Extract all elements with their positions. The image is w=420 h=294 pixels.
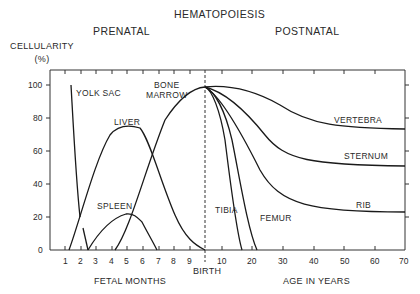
curve-rib: [205, 87, 405, 212]
curve-femur: [205, 87, 257, 250]
curve-bone-marrow: [115, 87, 205, 250]
x-tick-marks: [65, 70, 375, 250]
curve-yolk-sac: [71, 85, 80, 217]
y-tick-marks: [46, 85, 409, 217]
plot-area: [0, 0, 420, 294]
curve-yolk-sac-tail: [83, 228, 88, 250]
curve-liver: [69, 126, 205, 250]
curve-spleen: [88, 214, 157, 250]
